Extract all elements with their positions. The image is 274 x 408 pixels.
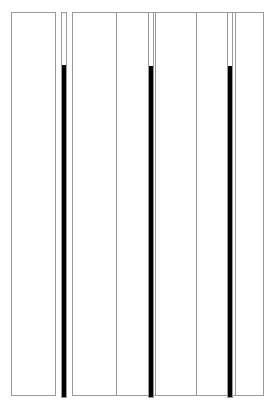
right-panel-divider-3 bbox=[196, 12, 197, 396]
diagram-canvas bbox=[0, 0, 274, 408]
gauge-3-tube bbox=[227, 12, 233, 398]
gauge-2-tube bbox=[148, 12, 154, 398]
right-group bbox=[0, 0, 274, 408]
right-panel-divider-2 bbox=[155, 12, 156, 396]
right-panel-divider-4 bbox=[235, 12, 236, 396]
right-panel-divider-1 bbox=[116, 12, 117, 396]
gauge-3-fill bbox=[228, 66, 232, 397]
gauge-2-fill bbox=[149, 66, 153, 397]
